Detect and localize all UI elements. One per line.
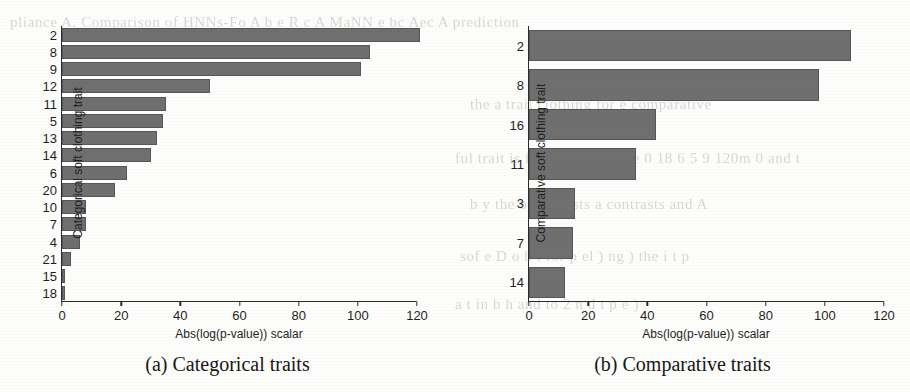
bar-row: 7 — [529, 227, 883, 259]
bar-row: 16 — [529, 109, 883, 141]
bar — [62, 28, 420, 42]
bar — [62, 269, 65, 283]
plot-area-a: 2891211513146201074211518 02040608010012… — [61, 26, 416, 302]
y-tick-label: 2 — [517, 38, 524, 53]
y-tick-label: 8 — [517, 78, 524, 93]
y-axis-title-a: Categorical soft clothing trait — [71, 63, 85, 263]
x-axis-tick — [180, 301, 181, 306]
x-axis-tick — [883, 301, 884, 306]
y-tick-label: 20 — [43, 182, 57, 197]
bar-row: 2 — [62, 28, 416, 42]
x-axis-tick — [239, 301, 240, 306]
bar — [529, 109, 656, 141]
x-tick-label: 0 — [58, 308, 65, 323]
bar-row: 21 — [62, 252, 416, 266]
bar-row: 14 — [529, 267, 883, 299]
bar-series-b: 2816113714 — [529, 26, 883, 301]
bar — [62, 252, 71, 266]
x-tick-label: 120 — [873, 308, 895, 323]
x-tick-label: 80 — [291, 308, 305, 323]
x-axis-tick — [706, 301, 707, 306]
x-tick-label: 100 — [814, 308, 836, 323]
panel-comparative-traits: 2816113714 020406080100120 Abs(log(p-val… — [455, 0, 910, 392]
x-axis-tick — [357, 301, 358, 306]
y-tick-label: 10 — [43, 200, 57, 215]
y-tick-label: 11 — [511, 156, 525, 171]
bar-row: 9 — [62, 62, 416, 76]
x-tick-label: 80 — [758, 308, 772, 323]
bar — [62, 183, 115, 197]
x-axis-tick — [647, 301, 648, 306]
y-tick-label: 14 — [43, 148, 57, 163]
x-axis-tick — [824, 301, 825, 306]
x-axis-tick — [61, 301, 62, 306]
y-tick-label: 7 — [517, 235, 524, 250]
bar-row: 15 — [62, 269, 416, 283]
y-tick-label: 2 — [50, 27, 57, 42]
y-tick-label: 18 — [43, 286, 57, 301]
bar-row: 5 — [62, 114, 416, 128]
y-tick-label: 12 — [43, 79, 57, 94]
y-tick-label: 16 — [510, 117, 524, 132]
bar-row: 12 — [62, 79, 416, 93]
bar-row: 10 — [62, 200, 416, 214]
x-axis-tick — [765, 301, 766, 306]
bar-row: 2 — [529, 30, 883, 62]
x-tick-label: 60 — [699, 308, 713, 323]
bar — [62, 286, 65, 300]
y-tick-label: 8 — [50, 44, 57, 59]
y-tick-label: 3 — [517, 196, 524, 211]
x-axis-title-a: Abs(log(p-value)) scalar — [175, 327, 302, 341]
y-tick-label: 21 — [43, 251, 57, 266]
x-tick-label: 20 — [581, 308, 595, 323]
x-tick-label: 120 — [406, 308, 428, 323]
bar-row: 13 — [62, 131, 416, 145]
x-tick-label: 0 — [525, 308, 532, 323]
x-tick-label: 20 — [114, 308, 128, 323]
y-tick-label: 13 — [43, 131, 57, 146]
plot-area-b: 2816113714 020406080100120 Abs(log(p-val… — [528, 26, 883, 302]
bar-row: 11 — [529, 148, 883, 180]
bar-row: 6 — [62, 166, 416, 180]
bar-series-a: 2891211513146201074211518 — [62, 26, 416, 301]
bar — [529, 30, 851, 62]
y-tick-label: 4 — [50, 234, 57, 249]
y-tick-label: 5 — [50, 113, 57, 128]
caption-b: (b) Comparative traits — [455, 353, 910, 376]
x-axis-tick — [298, 301, 299, 306]
x-axis-title-b: Abs(log(p-value)) scalar — [642, 327, 769, 341]
bar-row: 8 — [529, 69, 883, 101]
bar — [529, 69, 819, 101]
bar — [62, 45, 370, 59]
y-tick-label: 9 — [50, 62, 57, 77]
y-tick-label: 7 — [50, 217, 57, 232]
x-axis-tick — [528, 301, 529, 306]
bar-row: 3 — [529, 188, 883, 220]
y-tick-label: 11 — [44, 96, 58, 111]
x-tick-label: 40 — [173, 308, 187, 323]
x-axis-tick — [587, 301, 588, 306]
x-axis-tick — [120, 301, 121, 306]
bar-row: 14 — [62, 148, 416, 162]
y-tick-label: 15 — [43, 269, 57, 284]
bar-row: 11 — [62, 97, 416, 111]
x-tick-label: 100 — [347, 308, 369, 323]
bar-row: 18 — [62, 286, 416, 300]
y-tick-label: 14 — [510, 275, 524, 290]
bar — [62, 62, 361, 76]
caption-a: (a) Categorical traits — [0, 353, 455, 376]
bar-row: 8 — [62, 45, 416, 59]
x-tick-label: 60 — [232, 308, 246, 323]
panel-categorical-traits: 2891211513146201074211518 02040608010012… — [0, 0, 455, 392]
figure-container: 2891211513146201074211518 02040608010012… — [0, 0, 910, 392]
y-axis-title-b: Comparative soft clothing trait — [534, 53, 548, 273]
bar-row: 20 — [62, 183, 416, 197]
bar-row: 4 — [62, 235, 416, 249]
y-tick-label: 6 — [50, 165, 57, 180]
bar-row: 7 — [62, 217, 416, 231]
x-axis-tick — [416, 301, 417, 306]
x-tick-label: 40 — [640, 308, 654, 323]
